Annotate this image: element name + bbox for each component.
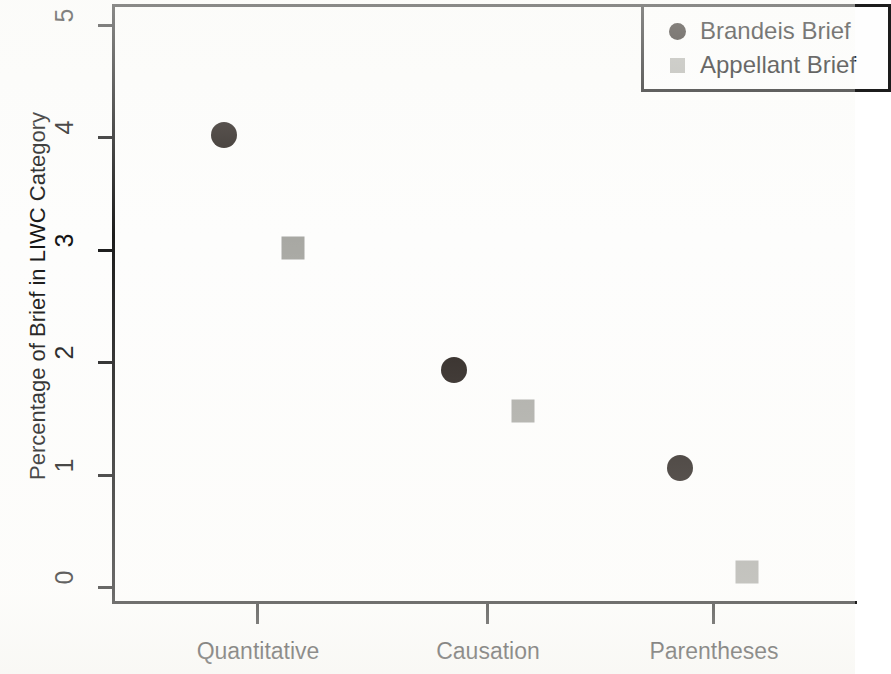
y-tick-mark-0 (98, 586, 112, 589)
y-tick-mark-3 (98, 249, 112, 252)
x-tick-label-quantitative: Quantitative (197, 638, 320, 665)
legend-entry-brandeis: Brandeis Brief (660, 15, 851, 47)
data-point-appellant-parentheses (736, 561, 759, 584)
data-point-appellant-quantitative (282, 237, 305, 260)
y-axis-title: Percentage of Brief in LIWC Category (25, 36, 51, 556)
y-tick-mark-5 (98, 24, 112, 27)
legend-label-brandeis: Brandeis Brief (700, 17, 851, 45)
legend-square-icon (660, 58, 694, 73)
data-point-brandeis-quantitative (211, 122, 237, 148)
x-axis-line (112, 601, 857, 604)
y-tick-mark-4 (98, 136, 112, 139)
x-tick-mark-quantitative (256, 604, 259, 624)
data-point-brandeis-parentheses (667, 455, 693, 481)
y-tick-mark-1 (98, 474, 112, 477)
x-tick-mark-causation (486, 604, 489, 624)
chart-legend: Brandeis Brief Appellant Brief (641, 4, 891, 92)
data-point-appellant-causation (512, 400, 535, 423)
legend-label-appellant: Appellant Brief (700, 51, 856, 79)
data-point-brandeis-causation (441, 357, 467, 383)
y-tick-label-2: 2 (50, 330, 79, 376)
y-tick-label-3: 3 (50, 218, 79, 264)
plot-area (115, 7, 855, 601)
y-tick-label-1: 1 (50, 443, 79, 489)
x-tick-label-parentheses: Parentheses (649, 638, 778, 665)
y-tick-label-0: 0 (50, 555, 79, 601)
x-tick-mark-parentheses (712, 604, 715, 624)
legend-entry-appellant: Appellant Brief (660, 49, 856, 81)
x-tick-label-causation: Causation (436, 638, 540, 665)
y-tick-label-4: 4 (50, 105, 79, 151)
y-tick-mark-2 (98, 361, 112, 364)
y-tick-label-5: 5 (50, 0, 79, 39)
legend-circle-icon (660, 23, 694, 40)
